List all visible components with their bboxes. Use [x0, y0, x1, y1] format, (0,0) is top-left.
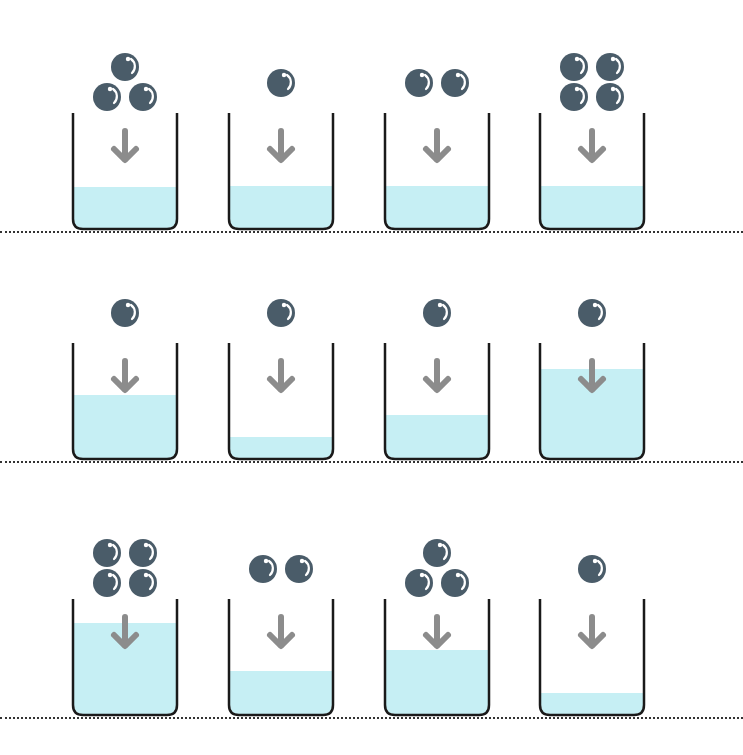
beaker-3-4	[0, 0, 743, 755]
arrow-down-icon	[581, 617, 603, 646]
ball-icon	[578, 555, 606, 583]
water-fill	[541, 693, 643, 714]
